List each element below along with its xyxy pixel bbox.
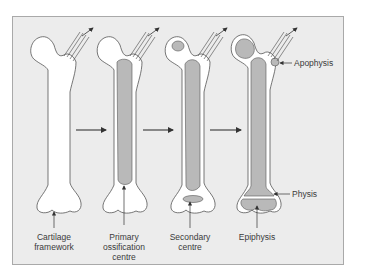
label-line: centre xyxy=(103,252,145,262)
label-line: centre xyxy=(170,242,211,252)
label-secondary-centre: Secondary centre xyxy=(170,232,211,252)
label-cartilage-framework: Cartilage framework xyxy=(34,232,74,252)
label-line: ossification xyxy=(103,242,145,252)
label-line: Primary xyxy=(103,232,145,242)
bone-cartilage-framework xyxy=(31,37,81,213)
label-line: framework xyxy=(34,242,74,252)
label-primary-ossification: Primary ossification centre xyxy=(103,232,145,262)
label-apophysis: Apophysis xyxy=(294,58,333,68)
label-physis: Physis xyxy=(292,189,317,199)
bone-epiphysis xyxy=(231,35,281,213)
label-line: Secondary xyxy=(170,232,211,242)
bone-secondary-centre xyxy=(165,37,215,213)
label-line: Epiphysis xyxy=(239,232,275,242)
label-epiphysis: Epiphysis xyxy=(239,232,275,242)
bone-primary-ossification xyxy=(97,37,147,213)
label-line: Cartilage xyxy=(34,232,74,242)
